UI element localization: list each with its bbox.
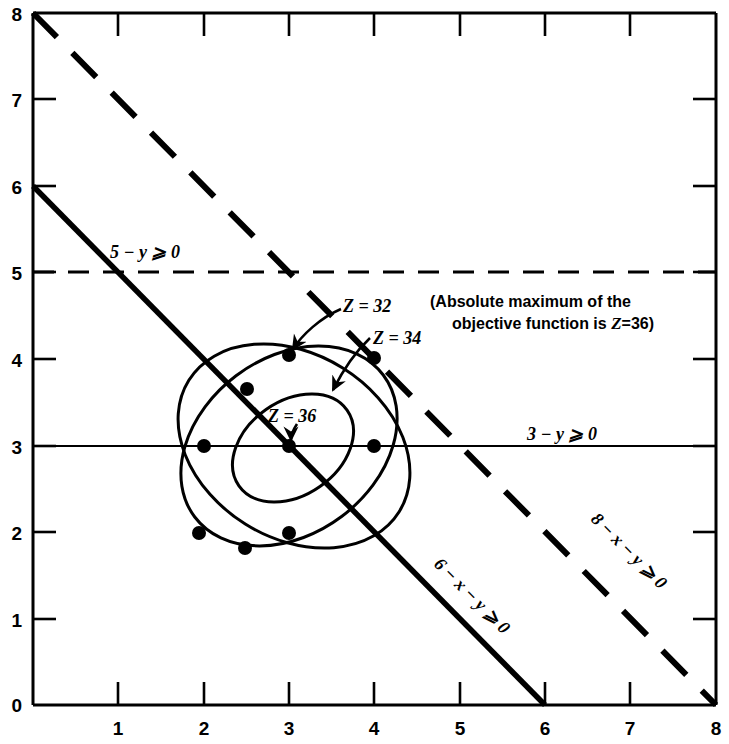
data-point: [282, 526, 296, 540]
x-tick-label-7: 7: [625, 718, 636, 739]
right-axis-ticks: [693, 99, 716, 619]
contour-label-z-34: Z = 34: [372, 328, 421, 348]
y-tick-label-8: 8: [11, 4, 22, 25]
top-axis-ticks: [118, 13, 630, 36]
contour-label-z-36-text: Z = 36: [267, 406, 316, 426]
svg-text:Z = 34: Z = 34: [372, 328, 421, 348]
contour-label-z-32-text: Z = 32: [342, 296, 391, 316]
x-tick-label-1: 1: [113, 718, 124, 739]
data-point: [367, 351, 381, 365]
contour-label-z-34-text: Z = 34: [372, 328, 421, 348]
y-tick-label-4: 4: [11, 350, 22, 371]
data-point: [238, 541, 252, 555]
svg-text:objective function is Z=36): objective function is Z=36): [452, 314, 654, 333]
x-tick-label-4: 4: [369, 718, 380, 739]
absolute-maximum-note-line1: (Absolute maximum of the: [430, 293, 631, 310]
svg-text:Z = 32: Z = 32: [342, 296, 391, 316]
x-tick-label-6: 6: [540, 718, 551, 739]
svg-text:Z = 36: Z = 36: [267, 406, 316, 426]
y-tick-label-7: 7: [11, 90, 22, 111]
data-point: [282, 348, 296, 362]
data-point: [197, 439, 211, 453]
x-tick-label-5: 5: [455, 718, 466, 739]
data-point: [240, 382, 254, 396]
y-tick-label-6: 6: [11, 177, 22, 198]
y-tick-labels: 8 7 6 5 4 3 2 1 0: [11, 4, 22, 716]
y-axis-ticks: [33, 99, 56, 619]
x-axis-ticks: [118, 682, 630, 705]
y-tick-label-5: 5: [11, 263, 22, 284]
data-point: [192, 526, 206, 540]
y-tick-label-2: 2: [11, 523, 22, 544]
constraint-label-eight-minus-x-minus-y: 8 − x − y ⩾ 0: [587, 509, 671, 593]
x-tick-labels: 1 2 3 4 5 6 7 8: [113, 718, 722, 739]
y-tick-label-1: 1: [11, 610, 22, 631]
y-tick-label-0: 0: [11, 695, 22, 716]
data-point: [367, 439, 381, 453]
constraint-label-six-minus-x-minus-y: 6 − x − y ⩾ 0: [430, 554, 514, 638]
constraint-label-three-minus-y: 3 − y ⩾ 0: [526, 424, 597, 444]
constraint-label-five-minus-y: 5 − y ⩾ 0: [110, 242, 180, 262]
contour-label-z-32: Z = 32: [342, 296, 391, 316]
y-tick-label-3: 3: [11, 437, 22, 458]
absolute-maximum-note: (Absolute maximum of the objective funct…: [430, 293, 654, 333]
absolute-maximum-note-line2-pre: objective function is: [452, 315, 611, 332]
x-tick-label-2: 2: [199, 718, 210, 739]
x-tick-label-8: 8: [711, 718, 722, 739]
data-point: [282, 439, 296, 453]
x-tick-label-3: 3: [284, 718, 295, 739]
contour-label-z-36: Z = 36: [267, 406, 316, 426]
absolute-maximum-note-line2-post: =36): [622, 315, 654, 332]
leader-arrow-z-36: [291, 424, 297, 440]
linear-programming-chart: 8 7 6 5 4 3 2 1 0 1 2 3 4 5 6 7 8: [0, 0, 729, 744]
absolute-maximum-note-symbol: Z: [610, 314, 621, 333]
leader-arrow-z-32: [293, 309, 341, 349]
